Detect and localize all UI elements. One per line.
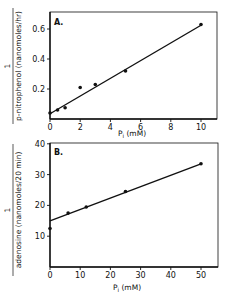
- y-tick-label: 40: [35, 140, 45, 149]
- figure: A. 0.20.40.6 0246810 Pi (mM) 1 p-nitroph…: [0, 0, 229, 304]
- svg-text:adenosine (nanomoles/20 min): adenosine (nanomoles/20 min): [14, 152, 23, 269]
- data-point: [199, 23, 203, 27]
- data-point: [48, 227, 52, 231]
- data-point: [94, 83, 98, 87]
- y-tick-label: 30: [35, 171, 45, 180]
- panel-a: A. 0.20.40.6 0246810 Pi (mM) 1 p-nitroph…: [3, 8, 217, 139]
- panel-b-x-ticks: 01020304050: [47, 267, 206, 280]
- svg-text:1: 1: [3, 63, 12, 68]
- data-point: [63, 106, 67, 110]
- panel-a-y-ticks: 0.20.40.6: [32, 25, 50, 94]
- data-point: [48, 111, 52, 115]
- y-tick-label: 0.2: [32, 85, 45, 94]
- panel-b-y-axis-title: 1 adenosine (nanomoles/20 min): [3, 144, 23, 276]
- data-point: [66, 211, 70, 215]
- x-tick-label: 0: [47, 123, 52, 132]
- x-tick-label: 2: [78, 123, 83, 132]
- x-tick-label: 40: [166, 271, 176, 280]
- panel-b-frame: [50, 143, 218, 267]
- x-tick-label: 20: [105, 271, 115, 280]
- panel-b-label: B.: [54, 148, 63, 157]
- x-tick-label: 0: [47, 271, 52, 280]
- data-point: [199, 162, 203, 166]
- panel-a-y-axis-title: 1 p-nitrophenol (nanomoles/hr): [3, 8, 23, 124]
- panel-b-y-ticks: 10203040: [35, 140, 50, 241]
- data-point: [124, 190, 128, 194]
- panel-b: B. 10203040 01020304050 Pi (mM) 1 adenos…: [3, 140, 218, 293]
- y-tick-label: 0.6: [32, 25, 45, 34]
- panel-b-x-axis-title: Pi (mM): [113, 283, 141, 293]
- data-point: [84, 205, 88, 209]
- y-tick-label: 10: [35, 232, 45, 241]
- x-tick-label: 8: [168, 123, 173, 132]
- svg-text:p-nitrophenol (nanomoles/hr): p-nitrophenol (nanomoles/hr): [14, 11, 23, 121]
- svg-text:1: 1: [3, 207, 12, 212]
- panel-a-x-axis-title: Pi (mM): [118, 129, 146, 139]
- x-tick-label: 10: [196, 123, 206, 132]
- panel-a-label: A.: [54, 18, 63, 27]
- data-point: [78, 86, 82, 90]
- x-tick-label: 4: [108, 123, 113, 132]
- x-tick-label: 30: [136, 271, 146, 280]
- data-point: [56, 108, 60, 112]
- y-tick-label: 0.4: [32, 55, 45, 64]
- data-point: [124, 69, 128, 73]
- x-tick-label: 10: [75, 271, 85, 280]
- x-tick-label: 50: [196, 271, 206, 280]
- y-tick-label: 20: [35, 201, 45, 210]
